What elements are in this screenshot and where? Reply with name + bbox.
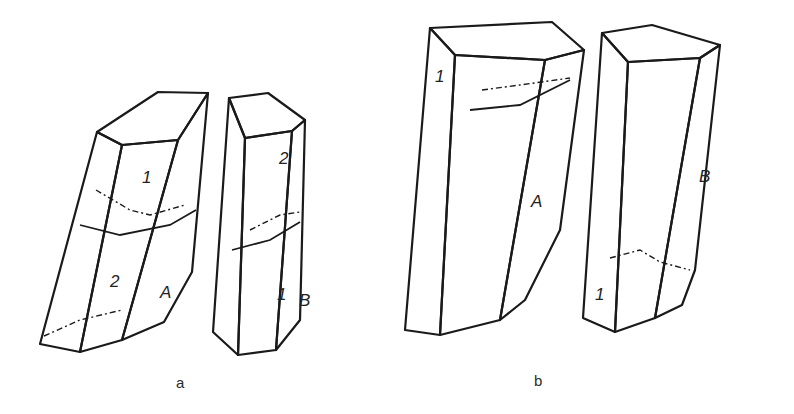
right-face [500,50,584,320]
top-face [97,92,208,145]
subfigure-label-b: b [534,372,542,389]
crystal-label-A: A [530,192,542,211]
crystal-label-A: A [159,283,171,302]
twin-label-1: 1 [595,285,604,304]
crystal-b-B: 1 B [583,25,720,332]
twin-label-1: 1 [277,285,286,304]
top-face [602,25,720,62]
crystal-label-B: B [299,291,310,310]
crystal-figure: 1 2 A 2 1 B 1 A 1 B [0,0,794,414]
twin-label-1: 1 [435,67,444,86]
right-face [122,93,208,340]
top-face [430,22,584,60]
crystal-a-B: 2 1 B [213,93,310,355]
twin-label-2: 2 [278,149,289,168]
subfigure-label-a: a [176,374,184,391]
front-face [80,140,178,352]
crystal-label-B: B [699,167,710,186]
twin-label-2: 2 [109,272,120,291]
top-face [229,93,305,138]
left-face [40,132,122,352]
crystal-a-A: 1 2 A [40,92,208,352]
crystal-b-A: 1 A [405,22,584,335]
twin-label-1: 1 [142,168,151,187]
